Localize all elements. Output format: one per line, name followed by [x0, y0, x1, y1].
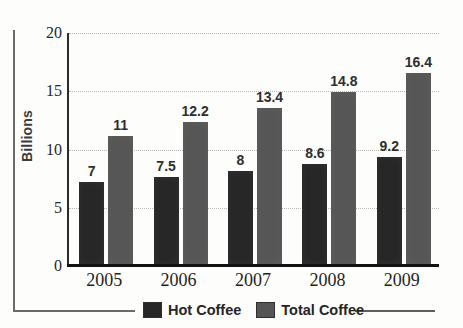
bar-hot-coffee-2008: [302, 164, 327, 264]
bar-value-label: 14.8: [325, 73, 362, 89]
bar-value-label: 8: [222, 152, 259, 168]
gridline: [69, 33, 439, 34]
legend-item-hot-coffee[interactable]: Hot Coffee: [143, 302, 241, 318]
legend-item-total-coffee[interactable]: Total Coffee: [256, 302, 364, 318]
x-category-label-2007: 2007: [216, 270, 290, 291]
y-axis-line: [67, 33, 69, 266]
y-tick-label: 10: [28, 141, 62, 159]
chart-legend: Hot Coffee Total Coffee: [143, 299, 372, 321]
bar-hot-coffee-2007: [228, 171, 253, 264]
bar-value-label: 9.2: [371, 138, 408, 154]
plot-area: 7117.512.2813.48.614.89.216.4: [67, 33, 439, 266]
bar-hot-coffee-2005: [79, 182, 104, 264]
x-category-label-2008: 2008: [290, 270, 364, 291]
bar-value-label: 16.4: [400, 54, 437, 70]
bar-chart: Billions 05101520 7117.512.2813.48.614.8…: [0, 0, 463, 328]
y-axis-tick-labels: 05101520: [22, 33, 62, 266]
y-tick-label: 0: [28, 257, 62, 275]
y-tick-label: 20: [28, 24, 62, 42]
x-category-label-2006: 2006: [141, 270, 215, 291]
bar-value-label: 13.4: [251, 89, 288, 105]
x-axis-line: [67, 264, 439, 267]
y-tick-label: 5: [28, 199, 62, 217]
bar-value-label: 8.6: [296, 145, 333, 161]
bar-total-coffee-2005: [108, 136, 133, 264]
legend-swatch-total-coffee: [256, 302, 275, 318]
bar-value-label: 7: [73, 163, 110, 179]
outer-bracket-vertical-rule: [13, 30, 15, 312]
bar-value-label: 11: [102, 117, 139, 133]
legend-swatch-hot-coffee: [143, 302, 162, 318]
x-category-label-2009: 2009: [365, 270, 439, 291]
bar-value-label: 12.2: [177, 103, 214, 119]
legend-label-hot-coffee: Hot Coffee: [168, 302, 241, 318]
bar-total-coffee-2008: [331, 92, 356, 264]
y-tick-label: 15: [28, 82, 62, 100]
bar-total-coffee-2009: [406, 73, 431, 264]
legend-label-total-coffee: Total Coffee: [281, 302, 364, 318]
outer-bracket-bottom-rule: [13, 310, 135, 312]
bar-total-coffee-2007: [257, 108, 282, 264]
x-category-label-2005: 2005: [67, 270, 141, 291]
bar-hot-coffee-2006: [154, 177, 179, 264]
bar-value-label: 7.5: [148, 158, 185, 174]
bar-total-coffee-2006: [183, 122, 208, 264]
bar-hot-coffee-2009: [377, 157, 402, 264]
